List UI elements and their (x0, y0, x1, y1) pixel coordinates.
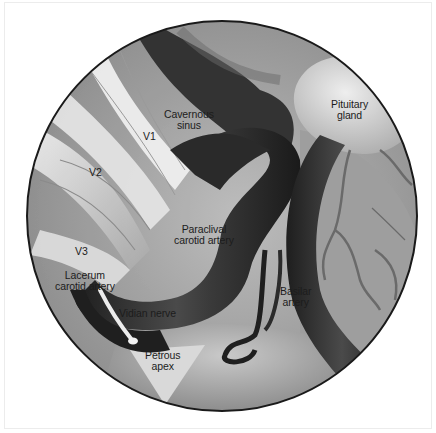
label-v1: V1 (143, 131, 156, 142)
label-v3: V3 (75, 246, 88, 257)
label-v2: V2 (89, 167, 102, 178)
label-vidian-nerve: Vidian nerve (119, 308, 176, 319)
label-line: carotid artery (174, 235, 234, 246)
label-basilar-artery: Basilar artery (280, 286, 311, 308)
label-line: gland (331, 110, 368, 121)
label-line: artery (280, 297, 311, 308)
label-pituitary-gland: Pituitary gland (331, 99, 368, 121)
label-paraclival-carotid-artery: Paraclival carotid artery (174, 224, 234, 246)
anatomy-illustration (0, 0, 436, 433)
label-petrous-apex: Petrous apex (145, 350, 181, 372)
label-cavernous-sinus: Cavernous sinus (164, 109, 214, 131)
label-line: apex (145, 361, 181, 372)
label-line: sinus (164, 120, 214, 131)
label-lacerum-carotid-artery: Lacerum carotid artery (55, 270, 115, 292)
label-line: carotid artery (55, 281, 115, 292)
